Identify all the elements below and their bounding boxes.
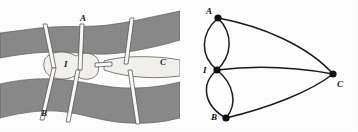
bridge-i-c [95, 62, 112, 67]
graph-label-c: C [337, 79, 344, 89]
multigraph-svg: A I B C [180, 0, 358, 132]
bridge-map-svg: A B C I [0, 0, 180, 132]
bridge-map-panel: A B C I [0, 0, 180, 132]
node-a [214, 14, 221, 21]
map-label-i: I [63, 59, 68, 69]
node-b [222, 114, 229, 121]
edge-i-c [217, 67, 333, 74]
edge-a-i-right [217, 18, 229, 70]
edge-a-c [218, 18, 333, 74]
edge-b-c [226, 74, 333, 118]
map-label-b: B [40, 108, 47, 118]
map-label-c: C [160, 57, 167, 67]
edge-b-i-left [206, 70, 226, 118]
edge-a-i-left [204, 18, 218, 70]
graph-label-b: B [210, 112, 217, 122]
graph-label-a: A [205, 6, 212, 16]
node-i [213, 66, 220, 73]
multigraph-panel: A I B C [180, 0, 358, 132]
koenigsberg-figure: A B C I A I B [0, 0, 358, 132]
edge-b-i-right [217, 70, 233, 118]
graph-label-i: I [202, 65, 207, 75]
graph-edges [204, 18, 333, 118]
map-label-a: A [79, 13, 86, 23]
node-c [329, 70, 336, 77]
